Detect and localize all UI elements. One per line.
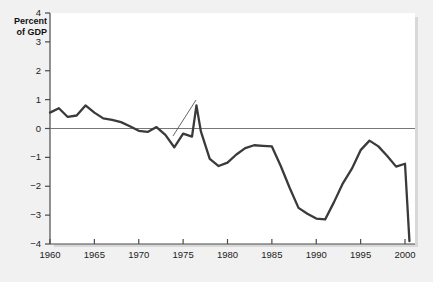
y-tick-label: −3: [19, 210, 41, 220]
chart-figure: Percent of GDP Net capital outflow 43210…: [0, 0, 433, 282]
y-tick-label: −1: [19, 152, 41, 162]
x-tick-label: 1990: [296, 250, 336, 260]
x-tick-label: 1985: [252, 250, 292, 260]
y-tick-marks: [45, 13, 50, 244]
y-tick-label: 0: [19, 124, 41, 134]
plot-area: [0, 0, 433, 282]
x-tick-label: 1970: [119, 250, 159, 260]
x-tick-label: 1960: [30, 250, 70, 260]
y-tick-label: 4: [19, 8, 41, 18]
y-tick-label: 1: [19, 95, 41, 105]
x-tick-label: 1980: [208, 250, 248, 260]
x-tick-label: 1995: [341, 250, 381, 260]
x-tick-label: 2000: [385, 250, 425, 260]
y-tick-label: 3: [19, 37, 41, 47]
x-tick-label: 1965: [74, 250, 114, 260]
x-tick-label: 1975: [163, 250, 203, 260]
y-tick-label: −2: [19, 181, 41, 191]
y-tick-label: 2: [19, 66, 41, 76]
y-tick-label: −4: [19, 239, 41, 249]
